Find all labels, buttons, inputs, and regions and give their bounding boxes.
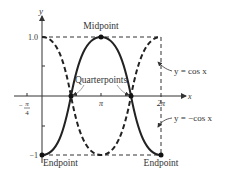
x-tick-2pi-label: 2π <box>157 99 166 108</box>
quarterpoint-arrow-1 <box>73 85 84 95</box>
legend-negcos-label: y = −cos x <box>174 113 212 123</box>
x-tick-neg-sign: − <box>19 102 23 110</box>
y-tick-label-top: 1.0 <box>28 33 38 42</box>
endpoint-dot-left <box>40 153 45 158</box>
chart-canvas: y x 1.0 −1 − π 4 π 2π Midpoint Quarterpo… <box>0 0 227 178</box>
endpoint-dot-right <box>159 153 164 158</box>
quarterpoints-label: Quarterpoints <box>75 75 128 85</box>
x-tick-neg-den: 4 <box>25 109 29 117</box>
midpoint-dot <box>99 35 104 40</box>
quarterpoint-dot-1 <box>69 94 74 99</box>
legend-cos-label: y = cos x <box>174 66 207 76</box>
endpoint-label-left: Endpoint <box>43 158 78 168</box>
endpoint-label-right: Endpoint <box>144 158 179 168</box>
x-tick-pi-label: π <box>99 99 104 108</box>
midpoint-label: Midpoint <box>83 21 119 31</box>
y-axis-label: y <box>38 6 43 16</box>
x-tick-neg-num: π <box>25 100 29 108</box>
legend-negcos-arrow <box>158 118 172 127</box>
quarterpoint-arrow-2 <box>117 85 129 95</box>
quarterpoint-dot-2 <box>129 94 134 99</box>
x-axis-label: x <box>187 92 192 101</box>
legend-cos-arrow <box>158 62 172 71</box>
y-tick-label-bottom: −1 <box>29 151 38 160</box>
